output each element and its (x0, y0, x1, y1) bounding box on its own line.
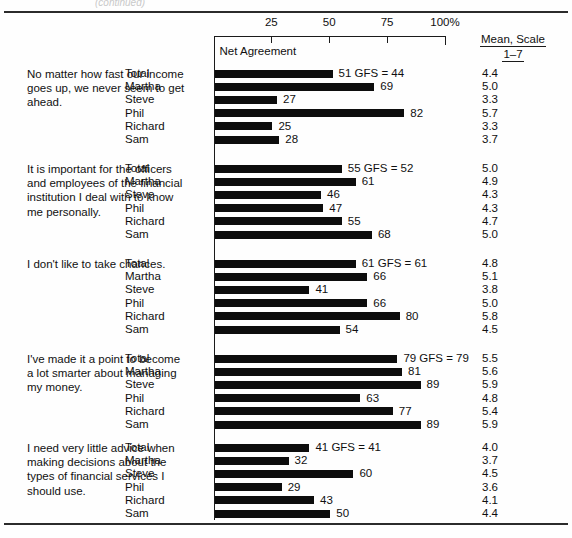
mean-value: 5.0 (482, 297, 522, 310)
mean-value: 4.3 (482, 202, 522, 215)
row-label-steve: Steve (125, 467, 187, 480)
mean-value: 4.8 (482, 257, 522, 270)
mean-value: 5.6 (482, 365, 522, 378)
bar-value-label: 89 (427, 378, 440, 391)
row-label-richard: Richard (125, 405, 187, 418)
bar-martha (215, 273, 368, 281)
row-label-steve: Steve (125, 283, 187, 296)
bar-value-label: 63 (366, 392, 379, 405)
chart-row: Martha695.0 (0, 80, 572, 93)
mean-value: 3.3 (482, 93, 522, 106)
statement-group: No matter how fast our income goes up, w… (0, 67, 572, 146)
row-label-richard: Richard (125, 215, 187, 228)
row-label-richard: Richard (125, 310, 187, 323)
chart-row: Richard775.4 (0, 405, 572, 418)
bar-value-label: 29 (288, 481, 301, 494)
mean-scale-header: Mean, Scale 1–7 (468, 33, 558, 62)
bar-value-label: 46 (327, 188, 340, 201)
axis-tick-75 (387, 36, 388, 43)
bar-value-label: 28 (285, 133, 298, 146)
bar-value-label: 89 (427, 418, 440, 431)
chart-row: Sam544.5 (0, 323, 572, 336)
chart-row: Richard434.1 (0, 494, 572, 507)
row-label-richard: Richard (125, 494, 187, 507)
bar-value-label: 43 (320, 494, 333, 507)
bar-value-label: 32 (295, 454, 308, 467)
bar-value-label: 79 GFS = 79 (403, 352, 469, 365)
mean-value: 3.3 (482, 120, 522, 133)
mean-value: 5.7 (482, 107, 522, 120)
bar-value-label: 55 GFS = 52 (348, 162, 414, 175)
bar-total (215, 444, 310, 452)
bar-value-label: 68 (378, 228, 391, 241)
chart-row: Steve273.3 (0, 93, 572, 106)
chart-row: Steve604.5 (0, 467, 572, 480)
chart-row: Sam283.7 (0, 133, 572, 146)
bar-value-label: 55 (348, 215, 361, 228)
bar-total (215, 355, 398, 363)
bar-phil (215, 204, 324, 212)
bar-value-label: 61 GFS = 61 (362, 257, 428, 270)
chart-row: Phil474.3 (0, 202, 572, 215)
bar-value-label: 41 (315, 283, 328, 296)
bar-value-label: 60 (359, 467, 372, 480)
row-label-total: Total (125, 352, 187, 365)
bar-steve (215, 191, 321, 199)
statement-group: I don't like to take chances.Total61 GFS… (0, 257, 572, 336)
mean-value: 5.9 (482, 418, 522, 431)
row-label-martha: Martha (125, 175, 187, 188)
top-rule (4, 11, 568, 13)
mean-value: 3.7 (482, 454, 522, 467)
chart-row: Sam504.4 (0, 507, 572, 520)
axis-tick-50 (329, 36, 330, 43)
mean-value: 4.4 (482, 67, 522, 80)
chart-row: Phil634.8 (0, 392, 572, 405)
chart-row: Total55 GFS = 525.0 (0, 162, 572, 175)
statement-group: I need very little advice when making de… (0, 441, 572, 520)
mean-scale-header-line2: 1–7 (502, 48, 523, 62)
row-label-sam: Sam (125, 228, 187, 241)
mean-value: 5.0 (482, 162, 522, 175)
bar-steve (215, 286, 310, 294)
bar-value-label: 50 (336, 507, 349, 520)
row-label-steve: Steve (125, 378, 187, 391)
bar-total (215, 70, 333, 78)
bar-value-label: 66 (373, 297, 386, 310)
chart-row: Martha815.6 (0, 365, 572, 378)
axis-tick-label-75: 75 (381, 16, 394, 29)
bar-value-label: 54 (346, 323, 359, 336)
bar-martha (215, 457, 289, 465)
axis-tick-100 (445, 36, 446, 45)
row-label-sam: Sam (125, 323, 187, 336)
bar-value-label: 81 (408, 365, 421, 378)
bar-value-label: 77 (399, 405, 412, 418)
bar-phil (215, 299, 368, 307)
chart-row: Phil665.0 (0, 297, 572, 310)
bar-richard (215, 496, 315, 504)
axis-tick-label-50: 50 (323, 16, 336, 29)
chart-row: Richard554.7 (0, 215, 572, 228)
bar-value-label: 80 (406, 310, 419, 323)
bar-martha (215, 83, 375, 91)
statement-group: It is important for the officers and emp… (0, 162, 572, 241)
row-label-martha: Martha (125, 454, 187, 467)
figure-page: (continued) 255075100% Net Agreement Mea… (0, 0, 572, 538)
row-label-sam: Sam (125, 507, 187, 520)
mean-value: 4.7 (482, 215, 522, 228)
bar-sam (215, 510, 331, 518)
mean-value: 3.8 (482, 283, 522, 296)
mean-value: 4.1 (482, 494, 522, 507)
chart-row: Total79 GFS = 795.5 (0, 352, 572, 365)
mean-value: 5.9 (482, 378, 522, 391)
bottom-rule (4, 523, 568, 525)
chart-row: Martha665.1 (0, 270, 572, 283)
row-label-sam: Sam (125, 133, 187, 146)
mean-value: 5.8 (482, 310, 522, 323)
bar-steve (215, 470, 354, 478)
mean-scale-header-line1: Mean, Scale (480, 33, 546, 47)
row-label-total: Total (125, 257, 187, 270)
mean-value: 5.1 (482, 270, 522, 283)
bar-richard (215, 122, 273, 130)
bar-richard (215, 312, 400, 320)
chart-row: Richard253.3 (0, 120, 572, 133)
